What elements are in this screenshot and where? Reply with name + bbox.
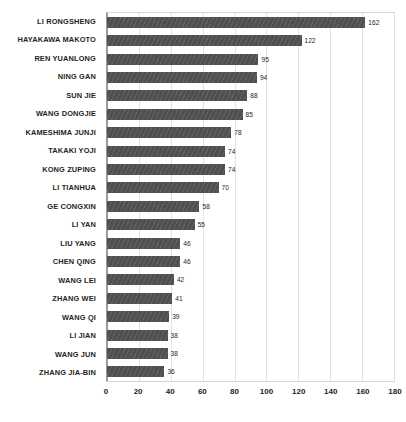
x-tick-label: 140	[324, 387, 337, 396]
horizontal-bar-chart: LI RONGSHENGHAYAKAWA MAKOTOREN YUANLONGN…	[0, 0, 406, 422]
category-label: TAKAKI YOJI	[0, 142, 101, 161]
bar-row: 38	[107, 326, 394, 344]
x-tick-label: 80	[230, 387, 239, 396]
bar	[107, 219, 195, 230]
bar-value-label: 46	[183, 240, 190, 247]
bar-value-label: 78	[234, 129, 241, 136]
bar-row: 78	[107, 123, 394, 141]
bar-row: 46	[107, 252, 394, 270]
bar	[107, 72, 257, 83]
bar-row: 55	[107, 215, 394, 233]
bar	[107, 348, 168, 359]
x-tick-label: 20	[134, 387, 143, 396]
category-label: LI RONGSHENG	[0, 12, 101, 31]
bar-value-label: 46	[183, 258, 190, 265]
bar	[107, 330, 168, 341]
bar	[107, 366, 164, 377]
bar	[107, 274, 174, 285]
bar-value-label: 88	[250, 92, 257, 99]
category-label: LI JIAN	[0, 327, 101, 346]
category-label: WANG JUN	[0, 345, 101, 364]
x-tick-label: 160	[356, 387, 369, 396]
category-label: CHEN QING	[0, 253, 101, 272]
bar-value-label: 38	[171, 350, 178, 357]
category-label: KAMESHIMA JUNJI	[0, 123, 101, 142]
value-axis: 020406080100120140160180	[106, 383, 395, 405]
bar-row: 88	[107, 87, 394, 105]
bar-row: 162	[107, 13, 394, 31]
category-label: LI YAN	[0, 216, 101, 235]
category-label: REN YUANLONG	[0, 49, 101, 68]
bar-value-label: 39	[172, 313, 179, 320]
bar	[107, 54, 258, 65]
bar-value-label: 85	[246, 111, 253, 118]
category-label: WANG LEI	[0, 271, 101, 290]
category-axis: LI RONGSHENGHAYAKAWA MAKOTOREN YUANLONGN…	[0, 12, 101, 382]
bar-value-label: 162	[368, 19, 379, 26]
category-label: GE CONGXIN	[0, 197, 101, 216]
bar	[107, 146, 225, 157]
bar-row: 36	[107, 363, 394, 381]
bar-value-label: 74	[228, 148, 235, 155]
bar-value-label: 74	[228, 166, 235, 173]
bar	[107, 182, 219, 193]
bar	[107, 293, 172, 304]
x-tick-label: 100	[260, 387, 273, 396]
bar-row: 74	[107, 142, 394, 160]
bar-value-label: 36	[167, 368, 174, 375]
bar-row: 122	[107, 31, 394, 49]
bar	[107, 109, 243, 120]
bar-value-label: 94	[260, 74, 267, 81]
category-label: KONG ZUPING	[0, 160, 101, 179]
category-label: HAYAKAWA MAKOTO	[0, 31, 101, 50]
category-label: WANG DONGJIE	[0, 105, 101, 124]
category-label: ZHANG JIA-BIN	[0, 364, 101, 383]
bar	[107, 127, 231, 138]
bar	[107, 35, 302, 46]
x-tick-label: 120	[292, 387, 305, 396]
bar	[107, 201, 199, 212]
category-label: LIU YANG	[0, 234, 101, 253]
bar-row: 46	[107, 234, 394, 252]
category-label: SUN JIE	[0, 86, 101, 105]
bar-row: 42	[107, 271, 394, 289]
bar	[107, 311, 169, 322]
x-tick-label: 0	[104, 387, 108, 396]
category-label: ZHANG WEI	[0, 290, 101, 309]
x-tick-label: 40	[166, 387, 175, 396]
bar-value-label: 55	[198, 221, 205, 228]
bar-row: 38	[107, 344, 394, 362]
bar-row: 94	[107, 68, 394, 86]
bar-row: 74	[107, 160, 394, 178]
bar	[107, 17, 365, 28]
bar-series: 1621229594888578747470585546464241393838…	[107, 13, 394, 381]
bar	[107, 238, 180, 249]
category-label: NING GAN	[0, 68, 101, 87]
bar-value-label: 41	[175, 295, 182, 302]
bar-row: 85	[107, 105, 394, 123]
bar-row: 58	[107, 197, 394, 215]
category-label: LI TIANHUA	[0, 179, 101, 198]
bar-value-label: 70	[222, 184, 229, 191]
gridline	[394, 13, 395, 381]
bar-value-label: 38	[171, 332, 178, 339]
bar-row: 41	[107, 289, 394, 307]
bar-row: 39	[107, 308, 394, 326]
bar	[107, 164, 225, 175]
bar-row: 70	[107, 179, 394, 197]
bar-value-label: 42	[177, 276, 184, 283]
bar-row: 95	[107, 50, 394, 68]
bar	[107, 90, 247, 101]
plot-area: 1621229594888578747470585546464241393838…	[106, 12, 395, 382]
bar-value-label: 122	[305, 37, 316, 44]
category-label: WANG QI	[0, 308, 101, 327]
x-tick-label: 180	[388, 387, 401, 396]
bar	[107, 256, 180, 267]
bar-value-label: 95	[261, 56, 268, 63]
bar-value-label: 58	[202, 203, 209, 210]
x-tick-label: 60	[198, 387, 207, 396]
